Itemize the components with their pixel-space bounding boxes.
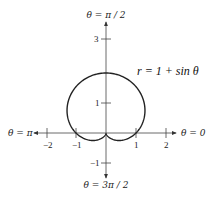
y-tick-label: −1 bbox=[90, 158, 100, 168]
theta-bottom-label: θ = 3π / 2 bbox=[84, 180, 129, 190]
x-tick-label: −1 bbox=[72, 140, 82, 150]
theta-top-label: θ = π / 2 bbox=[86, 10, 125, 20]
y-tick-label: 3 bbox=[94, 34, 99, 44]
x-tick-label: −2 bbox=[43, 140, 53, 150]
theta-right-label: θ = 0 bbox=[181, 128, 206, 138]
x-tick-label: 1 bbox=[134, 140, 139, 150]
y-tick-label: 1 bbox=[95, 98, 100, 108]
x-tick-label: 2 bbox=[164, 140, 169, 150]
polar-plot: −2 −1 1 2 3 1 −1 θ = π / 2 θ = 3π / 2 θ … bbox=[0, 0, 214, 200]
theta-left-label: θ = π bbox=[8, 128, 34, 138]
equation-label: r = 1 + sin θ bbox=[137, 64, 199, 78]
